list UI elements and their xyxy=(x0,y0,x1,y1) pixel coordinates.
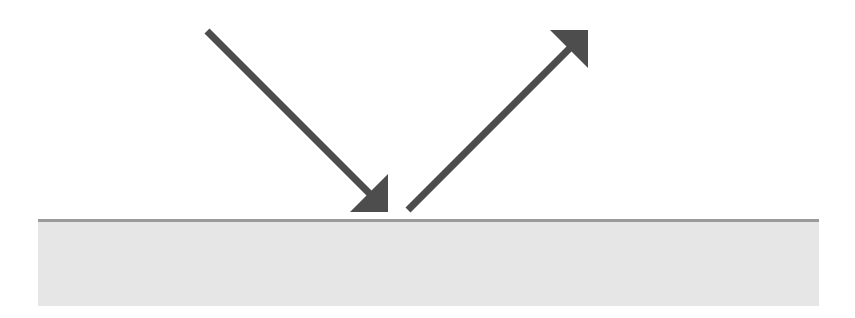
incident-ray-arrow-icon xyxy=(207,31,388,212)
rays-layer xyxy=(0,0,855,318)
reflected-ray-arrow-icon xyxy=(408,30,588,210)
reflection-diagram xyxy=(0,0,855,318)
